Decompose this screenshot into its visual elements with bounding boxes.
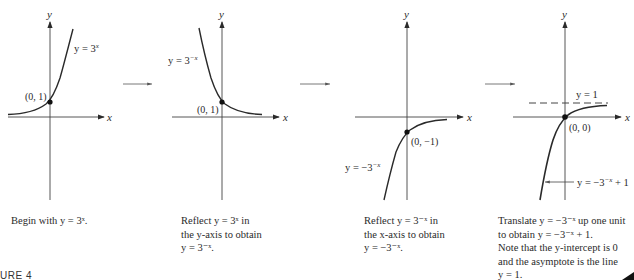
curve-label: y = −3−x + 1 [577, 176, 629, 188]
point-label: (0, 0) [569, 122, 591, 134]
caption-panel-1: Begin with y = 3ˣ. [11, 214, 87, 228]
point-label: (0, −1) [411, 136, 438, 148]
caption-line: Reflect y = 3ˣ in [181, 214, 262, 228]
exponential-curve [199, 28, 262, 115]
caption-panel-4: Translate y = −3⁻ˣ up one unit to obtain… [498, 214, 625, 280]
caption-line: Note that the y-intercept is 0 [498, 241, 625, 255]
intercept-point [404, 129, 409, 134]
point-label: (0, 1) [25, 91, 47, 103]
intercept-point [562, 114, 568, 120]
caption-line: y = −3⁻ˣ. [364, 241, 445, 255]
caption-line: Reflect y = 3⁻ˣ in [364, 214, 445, 228]
point-label: (0, 1) [197, 104, 219, 116]
y-axis-label: y [561, 8, 567, 20]
panel-1-graph: x y (0, 1) y = 3x [8, 8, 112, 200]
x-axis-label: x [466, 111, 472, 123]
y-axis-label: y [46, 8, 52, 20]
y-axis-label: y [403, 8, 409, 20]
curve-label: y = 3x [74, 42, 100, 54]
asymptote-label: y = 1 [576, 89, 598, 100]
x-axis-label: x [624, 111, 630, 123]
caption-panel-3: Reflect y = 3⁻ˣ in the x-axis to obtain … [364, 214, 445, 255]
panel-3-graph: x y (0, −1) y = −3−x [345, 8, 472, 200]
caption-line: and the asymptote is the line [498, 255, 625, 269]
x-axis-label: x [282, 111, 288, 123]
exponential-curve [384, 120, 447, 201]
caption-panel-2: Reflect y = 3ˣ in the y-axis to obtain y… [181, 214, 262, 255]
caption-line: to obtain y = −3⁻ˣ + 1. [498, 228, 625, 242]
caption-line: y = 3⁻ˣ. [181, 241, 262, 255]
caption-line: the y-axis to obtain [181, 228, 262, 242]
caption-line: the x-axis to obtain [364, 228, 445, 242]
caption-line: Begin with y = 3ˣ. [11, 214, 87, 228]
curve-label: y = −3−x [345, 161, 381, 173]
caption-line: y = 1. [498, 268, 625, 280]
caption-line: Translate y = −3⁻ˣ up one unit [498, 214, 625, 228]
y-axis-label: y [218, 8, 224, 20]
intercept-point [219, 99, 224, 104]
panel-4-graph: x y y = 1 (0, 0) y = −3−x + 1 [513, 8, 630, 200]
intercept-point [47, 99, 52, 104]
x-axis-label: x [106, 111, 112, 123]
panel-2-graph: x y (0, 1) y = 3−x [168, 8, 288, 200]
figure-label: URE 4 [0, 270, 32, 280]
curve-label: y = 3−x [168, 54, 198, 66]
